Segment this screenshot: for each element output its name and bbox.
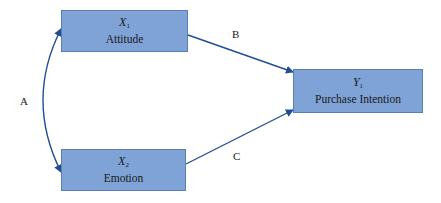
path-b-label: B — [232, 28, 239, 40]
path-c-label: C — [233, 150, 240, 162]
node-label: Emotion — [104, 172, 144, 185]
node-symbol: X2 — [118, 155, 129, 172]
node-symbol: X1 — [119, 16, 130, 33]
path-diagram: X1 Attitude X2 Emotion Y1 Purchase Inten… — [0, 0, 441, 203]
path-b-arrow — [188, 35, 293, 72]
node-x2-emotion: X2 Emotion — [61, 149, 186, 191]
node-label: Purchase Intention — [315, 93, 401, 106]
path-a-label: A — [20, 95, 28, 107]
path-a-curve — [43, 29, 61, 172]
node-label: Attitude — [106, 33, 144, 46]
node-y1-purchase-intention: Y1 Purchase Intention — [293, 69, 423, 113]
node-symbol: Y1 — [353, 76, 363, 93]
node-x1-attitude: X1 Attitude — [61, 10, 188, 52]
